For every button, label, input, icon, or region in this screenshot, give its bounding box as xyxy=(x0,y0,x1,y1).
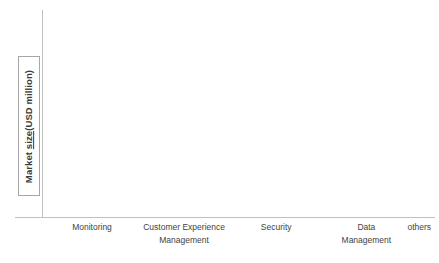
y-axis-title-suffix: (USD million) xyxy=(24,69,35,130)
category-label: others xyxy=(353,221,439,234)
y-axis-title-flagged-word: size xyxy=(24,130,35,148)
x-axis-line xyxy=(15,217,435,218)
y-axis-title-prefix: Market xyxy=(24,149,35,183)
category-label-line: Management xyxy=(300,234,433,247)
plot-area xyxy=(43,10,435,217)
y-axis-title: Market size(USD million) xyxy=(24,69,35,182)
category-label-line: Management xyxy=(117,234,250,247)
bar-chart: Market size(USD million) MonitoringCusto… xyxy=(0,0,439,263)
category-axis-labels: MonitoringCustomer ExperienceManagementS… xyxy=(43,221,435,263)
y-axis-title-box: Market size(USD million) xyxy=(18,56,40,196)
category-label-line: others xyxy=(353,221,439,234)
